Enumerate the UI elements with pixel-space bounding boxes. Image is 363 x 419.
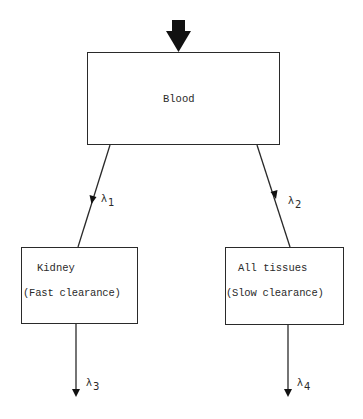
tissues-compartment [225, 247, 344, 325]
rate-index: 2 [295, 199, 301, 210]
flow-arrow-tissues-out [284, 324, 292, 397]
tissues-label: All tissues [238, 262, 307, 274]
lambda-symbol: λ [86, 377, 92, 388]
rate-lambda-2: λ2 [288, 195, 301, 206]
flow-arrow-kidney-out [72, 323, 80, 397]
lambda-symbol: λ [297, 377, 303, 388]
rate-index: 1 [108, 197, 114, 208]
input-arrow-icon [166, 20, 191, 52]
kidney-label: Kidney [37, 262, 75, 274]
rate-lambda-1: λ1 [101, 193, 114, 204]
rate-lambda-3: λ3 [86, 377, 99, 388]
blood-label: Blood [163, 93, 195, 105]
flow-arrow-blood-to-tissues [257, 145, 290, 247]
rate-index: 3 [93, 381, 99, 392]
kidney-subtitle: (Fast clearance) [23, 287, 121, 299]
tissues-subtitle: (Slow clearance) [226, 287, 324, 299]
compartment-diagram: Blood Kidney (Fast clearance) All tissue… [0, 0, 363, 419]
rate-lambda-4: λ4 [297, 377, 310, 388]
lambda-symbol: λ [288, 195, 294, 206]
kidney-compartment [21, 247, 138, 324]
lambda-symbol: λ [101, 193, 107, 204]
rate-index: 4 [304, 381, 310, 392]
